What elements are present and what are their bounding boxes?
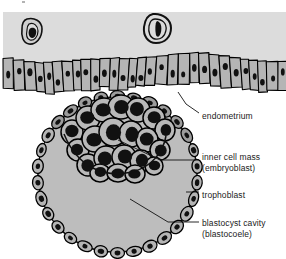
inner-cell-mass-nucleus bbox=[96, 103, 111, 116]
epithelial-cell bbox=[155, 56, 168, 85]
epithelial-cell bbox=[167, 54, 178, 85]
epithelial-cell-nucleus bbox=[223, 63, 228, 70]
inner-cell-mass-nucleus bbox=[125, 127, 138, 142]
scan-artifact-mark bbox=[22, 1, 25, 3]
epithelial-cell-nucleus bbox=[76, 71, 80, 78]
inner-cell-mass-nucleus bbox=[136, 154, 148, 167]
uterine-lumen bbox=[3, 12, 286, 64]
inner-cell-mass-nucleus bbox=[148, 111, 161, 123]
inner-cell-mass-nucleus bbox=[86, 133, 101, 146]
epithelial-cell bbox=[13, 60, 25, 91]
label-endometrium: endometrium bbox=[202, 111, 253, 122]
epithelial-cell-nucleus bbox=[47, 73, 51, 80]
epithelial-cell-nucleus bbox=[181, 72, 185, 78]
epithelial-cell bbox=[278, 61, 286, 90]
blastocyst bbox=[32, 91, 203, 259]
inner-cell-mass-nucleus bbox=[106, 124, 121, 140]
epithelial-cell-nucleus bbox=[171, 70, 175, 78]
epithelial-cell-nucleus bbox=[244, 68, 249, 74]
trophoblast-cell-nucleus bbox=[115, 251, 121, 256]
epithelial-cell-nucleus bbox=[94, 76, 99, 83]
free-cell-right bbox=[144, 14, 171, 43]
label-blastocyst-cavity-sub: (blastocoele) bbox=[202, 229, 252, 240]
inner-cell-mass-nucleus bbox=[114, 100, 129, 114]
free-cell-left bbox=[22, 18, 42, 44]
epithelial-cell-nucleus bbox=[202, 66, 207, 73]
epithelial-cell-nucleus bbox=[102, 70, 107, 77]
inner-cell-mass-nucleus bbox=[80, 111, 94, 124]
epithelial-cell-nucleus bbox=[234, 69, 239, 76]
epithelial-cell-nucleus bbox=[138, 75, 143, 81]
epithelial-cell-nucleus bbox=[212, 69, 217, 77]
inner-cell-mass-nucleus bbox=[130, 102, 144, 116]
label-inner-cell-mass: inner cell mass bbox=[202, 152, 260, 163]
inner-cell-mass-nucleus bbox=[161, 124, 172, 136]
epithelial-cell-nucleus bbox=[260, 79, 265, 86]
epithelial-cell-nucleus bbox=[281, 68, 285, 75]
epithelial-cell-nucleus bbox=[66, 71, 70, 77]
label-blastocyst-cavity: blastocyst cavity bbox=[202, 218, 266, 229]
label-inner-cell-mass-sub: (embryoblast) bbox=[202, 163, 255, 174]
epithelial-cell-nucleus bbox=[17, 68, 21, 74]
epithelial-cell-nucleus bbox=[148, 68, 152, 74]
epithelial-cell-nucleus bbox=[192, 64, 197, 72]
epithelial-cell-nucleus bbox=[159, 64, 163, 70]
epithelial-cell-nucleus bbox=[112, 70, 116, 78]
epithelial-cell-nucleus bbox=[271, 76, 275, 82]
inner-cell-mass-nucleus bbox=[118, 150, 132, 164]
epithelial-cell-nucleus bbox=[83, 69, 88, 75]
inner-cell-mass-nucleus bbox=[98, 151, 112, 165]
inner-cell-mass-nucleus bbox=[140, 133, 154, 146]
epithelial-cell-nucleus bbox=[27, 68, 32, 76]
epithelial-cell bbox=[91, 59, 100, 91]
epithelial-cell-nucleus bbox=[121, 75, 126, 81]
epithelial-cell bbox=[178, 53, 190, 84]
epithelial-cell-nucleus bbox=[6, 71, 10, 79]
epithelial-cell-nucleus bbox=[38, 76, 43, 82]
epithelial-cell-nucleus bbox=[56, 79, 60, 85]
epithelial-cell-nucleus bbox=[131, 75, 135, 83]
inner-cell-mass-nucleus bbox=[65, 125, 78, 137]
label-trophoblast: trophoblast bbox=[202, 190, 245, 201]
epithelial-cell-nucleus bbox=[253, 73, 257, 80]
